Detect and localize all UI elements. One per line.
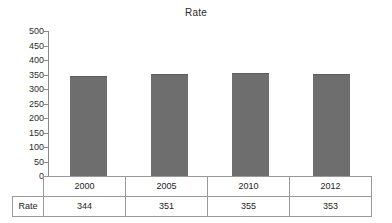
table-value-2005: 351 (126, 197, 208, 217)
y-axis-tick-label-250: 250 (0, 99, 44, 108)
table-header-2005: 2005 (126, 177, 208, 197)
y-axis-tick-label-450: 450 (0, 41, 44, 50)
data-table: 2000200520102012 Rate 344351355353 (12, 176, 372, 217)
table-value-2010: 355 (208, 197, 290, 217)
bar-2000 (70, 76, 107, 176)
chart-title: Rate (0, 7, 392, 18)
table-row-label: Rate (13, 197, 44, 217)
table-value-2012: 353 (290, 197, 372, 217)
table-row-values: Rate 344351355353 (13, 197, 372, 217)
y-axis-tick-label-200: 200 (0, 114, 44, 123)
y-axis-tick-label-100: 100 (0, 143, 44, 152)
table-header-2012: 2012 (290, 177, 372, 197)
y-axis-tick-label-300: 300 (0, 85, 44, 94)
table-row-header: 2000200520102012 (13, 177, 372, 197)
table-header-2010: 2010 (208, 177, 290, 197)
table-corner-blank (13, 177, 44, 197)
bar-2012 (313, 74, 350, 176)
y-axis-tick-label-50: 50 (0, 157, 44, 166)
table-value-2000: 344 (44, 197, 126, 217)
y-axis-tick-label-350: 350 (0, 70, 44, 79)
bar-2010 (232, 73, 269, 176)
y-axis-tick-label-150: 150 (0, 128, 44, 137)
bar-2005 (151, 74, 188, 176)
y-axis-tick-label-400: 400 (0, 56, 44, 65)
table-header-2000: 2000 (44, 177, 126, 197)
y-axis-tick-label-500: 500 (0, 27, 44, 36)
plot-area (48, 31, 372, 176)
